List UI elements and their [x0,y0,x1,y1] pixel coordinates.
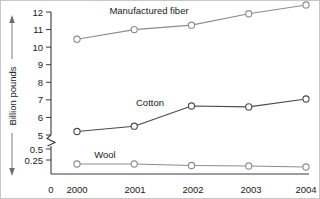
data-point [246,163,252,169]
data-point [303,2,309,8]
series-cotton [74,96,309,135]
x-tick-label-2003: 2003 [240,184,261,195]
series-label-wool: Wool [94,149,115,160]
y-tick-label-7: 7 [38,94,43,105]
y-tick-label-6: 6 [38,112,43,123]
x-tick-label-2004: 2004 [295,184,316,195]
series-label-manufactured-fiber: Manufactured fiber [109,5,188,16]
data-point [131,161,137,167]
data-point [303,164,309,170]
data-point [303,96,309,102]
series-label-cotton: Cotton [136,97,164,108]
data-point [74,161,80,167]
x-tick-label-2001: 2001 [124,184,145,195]
y-ticks-lower [46,149,51,160]
x-tick-label-2002: 2002 [182,184,203,195]
x-tick-label-2000: 2000 [66,184,87,195]
data-point [188,162,194,168]
data-point [188,103,194,109]
y-tick-label-8: 8 [38,77,43,88]
y-ticks-upper [46,12,51,135]
y-tick-label-11: 11 [33,24,43,35]
data-point [131,26,137,32]
chart-figure: Billion pounds 12 11 10 9 8 [0,0,320,199]
series-layer [74,2,309,170]
data-point [188,22,194,28]
data-point [74,36,80,42]
data-point [246,11,252,17]
y-tick-label-0: 0 [48,184,53,195]
data-point [246,104,252,110]
y-tick-label-5: 5 [38,130,43,141]
y-tick-label-10: 10 [32,42,43,53]
data-point [74,128,80,134]
series-wool [74,161,309,170]
line-chart: Billion pounds 12 11 10 9 8 [1,1,320,199]
y-tick-label-0-25: 0.25 [25,155,44,166]
y-axis-title: Billion pounds [7,66,18,125]
data-point [131,123,137,129]
y-tick-label-0-5: 0.5 [30,144,43,155]
axis-break-marker [47,135,55,146]
y-tick-label-9: 9 [38,59,43,70]
y-tick-label-12: 12 [32,7,43,18]
